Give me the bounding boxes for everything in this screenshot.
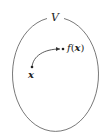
mapping-arrow bbox=[32, 49, 60, 67]
point-label-x: x bbox=[28, 70, 34, 80]
set-ellipse bbox=[13, 19, 99, 132]
set-label-v: V bbox=[51, 12, 59, 23]
image-label-fx: f(x) bbox=[67, 43, 84, 53]
point-x-dot bbox=[31, 66, 34, 69]
point-fx-dot bbox=[62, 48, 65, 51]
paren-close: ) bbox=[81, 42, 85, 53]
